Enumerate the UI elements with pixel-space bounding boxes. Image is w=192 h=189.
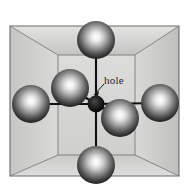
figure-canvas: hole <box>0 0 192 189</box>
atom-right <box>141 84 179 122</box>
atom-front-lower <box>101 99 139 137</box>
hole-label: hole <box>104 74 124 86</box>
unit-cell-illustration <box>0 0 192 189</box>
atom-top <box>77 21 115 59</box>
atom-left <box>12 85 50 123</box>
atom-hole-center <box>88 96 105 113</box>
atom-bottom <box>77 146 115 184</box>
atom-back-upper <box>51 69 89 107</box>
